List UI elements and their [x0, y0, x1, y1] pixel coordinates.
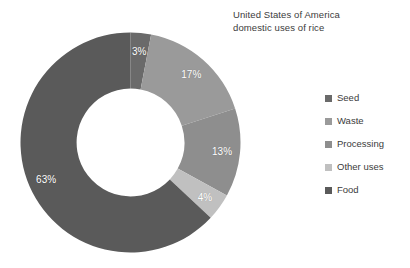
donut-chart: 3%17%13%4%63%	[20, 32, 241, 253]
legend-item-label: Waste	[337, 115, 364, 127]
legend-item-processing[interactable]: Processing	[325, 138, 405, 150]
donut-svg	[20, 32, 241, 253]
slice-value-seed: 3%	[132, 45, 146, 56]
legend-swatch-icon	[325, 164, 332, 171]
donut-slice-group	[20, 33, 240, 253]
legend-item-seed[interactable]: Seed	[325, 92, 405, 104]
legend-item-label: Food	[337, 184, 359, 196]
slice-value-waste: 17%	[181, 68, 201, 79]
chart-title-line-2: domestic uses of rice	[233, 21, 403, 34]
legend-swatch-icon	[325, 141, 332, 148]
legend-item-label: Other uses	[337, 161, 383, 173]
donut-slice-waste[interactable]	[141, 34, 236, 125]
chart-title-line-1: United States of America	[233, 8, 403, 21]
legend-item-label: Seed	[337, 92, 359, 104]
legend-swatch-icon	[325, 118, 332, 125]
chart-title: United States of America domestic uses o…	[233, 8, 403, 34]
chart-canvas: United States of America domestic uses o…	[0, 0, 410, 268]
legend-item-label: Processing	[337, 138, 384, 150]
legend-item-other-uses[interactable]: Other uses	[325, 161, 405, 173]
legend-item-food[interactable]: Food	[325, 184, 405, 196]
legend-item-waste[interactable]: Waste	[325, 115, 405, 127]
chart-legend: SeedWasteProcessingOther usesFood	[325, 92, 405, 207]
slice-value-processing: 13%	[212, 146, 232, 157]
slice-value-food: 63%	[36, 174, 56, 185]
legend-swatch-icon	[325, 95, 332, 102]
legend-swatch-icon	[325, 187, 332, 194]
slice-value-other-uses: 4%	[198, 191, 212, 202]
